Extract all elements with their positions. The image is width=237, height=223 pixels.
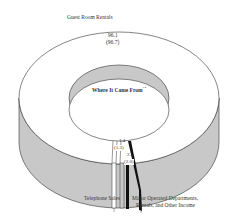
slice-minor-side: [120, 163, 124, 208]
label-minor-line1: Minor Operated Departments,: [132, 195, 198, 201]
label-telephone-sales: Telephone Sales: [84, 195, 120, 201]
prior-telephone: (1.3): [114, 145, 124, 151]
slice-minor-dark-wedge: [126, 164, 129, 209]
prior-minor: (2.0): [124, 159, 134, 165]
chart-title-text: Where It Came From: [92, 87, 143, 93]
label-guest-room-rentals: Guest Room Rentals: [67, 14, 113, 20]
value-minor: 2.5: [127, 152, 133, 158]
prior-guest: (96.7): [106, 39, 119, 45]
donut-chart: [0, 0, 237, 223]
chart-title: Where It Came From¹ ²: [92, 86, 146, 93]
value-telephone: 1.4: [119, 138, 125, 144]
label-minor-line2: Rentals, and Other Income: [136, 202, 195, 208]
chart-title-marker: ¹ ²: [143, 85, 146, 90]
value-guest: 96.1: [108, 32, 118, 38]
